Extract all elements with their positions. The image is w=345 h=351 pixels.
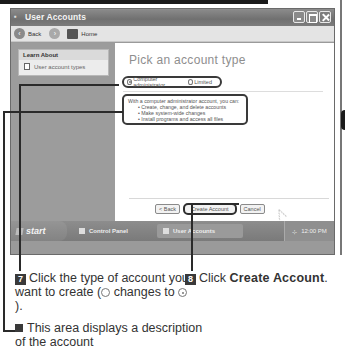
callout-line-8 (191, 203, 193, 271)
radio-selected-icon (178, 288, 187, 297)
system-tray: ⊹ 12:00 PM (284, 221, 334, 241)
taskbar: start Control Panel User Accounts ⊹ 12:0… (11, 221, 334, 241)
taskbar-item-label: User Accounts (173, 228, 215, 234)
document-icon (24, 63, 30, 70)
learn-about-heading: Learn About (19, 50, 108, 60)
page-title: Pick an account type (129, 53, 246, 67)
back-wizard-button[interactable]: < Back (155, 204, 180, 214)
user-accounts-icon: ▪ (14, 13, 23, 21)
description-bullet: Install programs and access all files (138, 116, 242, 122)
start-label: start (26, 226, 46, 236)
step-7-callout: 7Click the type of account you want to c… (15, 271, 190, 313)
window-title: User Accounts (25, 12, 86, 22)
navigation-toolbar: ‹ Back › Home (11, 26, 334, 42)
step-number: 7 (15, 274, 26, 285)
callout-text: . (324, 271, 327, 285)
back-arrow-icon[interactable]: ‹ (14, 28, 25, 39)
close-button[interactable] (319, 11, 331, 23)
callout-text: ). (15, 299, 23, 313)
radio-computer-administrator[interactable] (127, 79, 132, 85)
user-accounts-window: ▪ User Accounts ‹ Back › Home Learn Abou… (10, 8, 335, 255)
callout-bold-text: Create Account (230, 271, 325, 285)
account-type-description: With a computer administrator account, y… (122, 94, 248, 125)
radio-unselected-icon (101, 288, 110, 297)
callout-text: This area displays a description of the … (15, 321, 202, 349)
account-type-options: Computer administrator Limited (122, 76, 222, 88)
sidebar-item-user-account-types[interactable]: User account types (19, 60, 108, 70)
divider (129, 198, 329, 199)
taskbar-item-user-accounts[interactable]: User Accounts (157, 224, 243, 238)
minimize-button[interactable] (293, 11, 305, 23)
callout-line-7 (19, 84, 119, 86)
taskbar-item-control-panel[interactable]: Control Panel (73, 224, 145, 238)
home-button[interactable]: Home (81, 31, 97, 37)
main-content: Pick an account type Computer administra… (115, 43, 334, 221)
maximize-button[interactable] (306, 11, 318, 23)
home-icon[interactable] (67, 29, 78, 39)
page-header-bar (0, 0, 268, 4)
wizard-buttons: < Back Create Account Cancel (155, 203, 265, 215)
radio-limited[interactable] (188, 79, 193, 85)
callout-line-note (3, 111, 123, 113)
sidebar-item-label: User account types (34, 64, 85, 70)
step-number: 8 (185, 274, 196, 285)
callout-line-note (3, 330, 15, 332)
step-8-callout: 8Click Create Account. (185, 271, 345, 285)
callout-text: Click (199, 271, 230, 285)
tray-icon[interactable]: ⊹ (292, 228, 297, 235)
square-bullet-icon (15, 324, 23, 332)
forward-arrow-icon[interactable]: › (49, 28, 60, 39)
title-bar[interactable]: ▪ User Accounts (11, 9, 334, 26)
mouse-cursor-icon (275, 208, 286, 220)
sidebar: Learn About User account types (11, 43, 115, 221)
page-tab-marker (341, 110, 345, 130)
taskbar-item-label: Control Panel (89, 228, 128, 234)
radio-label-computer-administrator[interactable]: Computer administrator (133, 76, 180, 88)
clock: 12:00 PM (301, 228, 327, 234)
callout-line-note (3, 111, 5, 331)
learn-about-panel: Learn About User account types (18, 49, 109, 76)
note-callout: This area displays a description of the … (15, 321, 215, 349)
back-button[interactable]: Back (28, 31, 41, 37)
callout-text: changes to (110, 285, 178, 299)
radio-label-limited[interactable]: Limited (194, 79, 212, 85)
control-panel-icon (79, 228, 85, 234)
cancel-button[interactable]: Cancel (240, 204, 265, 214)
divider (123, 91, 323, 92)
user-accounts-icon (163, 228, 169, 234)
callout-line-8 (191, 203, 239, 205)
